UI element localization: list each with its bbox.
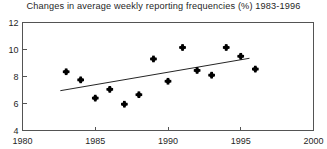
x-tick-label: 1995: [231, 136, 251, 146]
y-tick-label: 8: [13, 72, 18, 82]
axis-frame: [23, 23, 314, 131]
data-point: [237, 53, 244, 60]
plot-area: 4681012 19801985199019952000: [0, 0, 327, 149]
x-tick-label: 1990: [158, 136, 178, 146]
x-tick-label: 2000: [303, 136, 323, 146]
plot-frame: [23, 23, 314, 131]
y-axis-ticks: [23, 23, 27, 131]
y-axis-tick-labels: 4681012: [8, 18, 18, 136]
trend-line-group: [60, 58, 249, 90]
x-axis-tick-labels: 19801985199019952000: [12, 136, 323, 146]
data-point: [165, 78, 172, 85]
trend-line: [60, 58, 249, 90]
data-point: [252, 66, 259, 73]
x-tick-label: 1985: [85, 136, 105, 146]
data-point: [121, 101, 128, 108]
y-tick-label: 6: [13, 99, 18, 109]
data-point: [150, 56, 157, 63]
scatter-plot-svg: 4681012 19801985199019952000: [0, 0, 327, 149]
chart-figure: Changes in average weekly reporting freq…: [0, 0, 327, 149]
data-point: [208, 72, 215, 79]
x-axis-ticks: [23, 127, 314, 131]
y-tick-label: 4: [13, 126, 18, 136]
data-point: [77, 77, 84, 84]
data-point: [179, 44, 186, 51]
data-point: [136, 91, 143, 98]
data-point: [92, 95, 99, 102]
y-tick-label: 12: [8, 18, 18, 28]
data-point-markers: [63, 44, 259, 107]
x-tick-label: 1980: [12, 136, 32, 146]
data-point: [107, 86, 114, 93]
data-point: [223, 44, 230, 51]
y-tick-label: 10: [8, 45, 18, 55]
data-point: [63, 68, 70, 75]
